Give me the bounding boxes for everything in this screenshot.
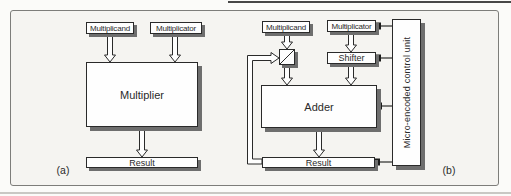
connections-layer [0,0,511,196]
arrow-shifter-to-adder-b [346,64,357,85]
arrow-adder-to-result-b [314,128,325,157]
arrow-multiplicator-to-multiplier-a [170,34,181,62]
control-unit-label: Micro-encoded control unit [392,19,421,166]
arrow-selector-to-adder-b [282,65,293,85]
block-multiplicand-b: Multiplicand [262,21,310,33]
selector-diagonal [280,50,294,64]
block-multiplicator-b: Multiplicator [327,20,376,32]
arrow-multiplicand-to-selector-b [282,33,293,49]
figure-multiplier-architectures: Multiplicand Multiplicator Multiplier Re… [0,0,511,196]
block-multiplicand-a: Multiplicand [86,22,134,34]
panel-b-label: (b) [436,164,462,176]
panel-a-label: (a) [50,164,76,176]
block-multiplicator-a: Multiplicator [150,22,202,34]
block-multiplier-a: Multiplier [86,62,198,127]
block-adder-b: Adder [261,85,377,128]
operand-selector-symbol [279,49,295,65]
arrow-multiplicator-to-shifter-b [346,32,357,52]
block-result-b: Result [262,157,375,168]
block-shifter-b: Shifter [327,52,376,64]
arrow-multiplicand-to-multiplier-a [105,34,116,62]
arrow-multiplier-to-result-a [137,127,148,157]
block-result-a: Result [86,157,198,168]
